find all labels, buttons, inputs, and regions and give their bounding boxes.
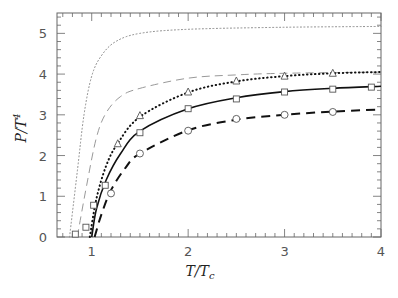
circle-marker [108, 190, 115, 197]
x-tick-label: 2 [184, 244, 192, 259]
curve-dotted-thin [70, 26, 381, 237]
circle-marker [329, 108, 336, 115]
square-marker [282, 89, 288, 95]
square-marker [185, 106, 191, 112]
square-marker [102, 182, 108, 188]
data-curves [70, 26, 381, 237]
y-tick-label: 3 [39, 108, 47, 123]
square-marker [91, 202, 97, 208]
circle-marker [136, 150, 143, 157]
y-tick-label: 5 [39, 26, 47, 41]
y-tick-label: 2 [39, 149, 47, 164]
circle-marker [233, 115, 240, 122]
square-marker [83, 224, 89, 230]
square-marker [72, 231, 78, 237]
triangle-marker [114, 140, 121, 147]
tick-labels: 1234012345 [39, 26, 385, 259]
y-tick-label: 0 [39, 230, 47, 245]
data-markers [72, 69, 374, 237]
curve-dashed-thin [77, 72, 381, 237]
chart: 1234012345 T/Tc P/T4 [0, 0, 398, 298]
curve-solid [92, 86, 381, 237]
y-axis-label: P/T4 [12, 113, 29, 143]
y-tick-label: 4 [39, 67, 47, 82]
square-marker [137, 130, 143, 136]
x-tick-label: 3 [280, 244, 288, 259]
curve-dashed-thick [95, 110, 381, 237]
square-marker [330, 86, 336, 92]
square-marker [233, 96, 239, 102]
x-tick-label: 1 [88, 244, 96, 259]
square-marker [368, 84, 374, 90]
circle-marker [281, 111, 288, 118]
circle-marker [185, 127, 192, 134]
triangle-marker [185, 88, 192, 95]
x-tick-label: 4 [377, 244, 385, 259]
x-axis-label: T/Tc [185, 263, 214, 281]
y-tick-label: 1 [39, 189, 47, 204]
